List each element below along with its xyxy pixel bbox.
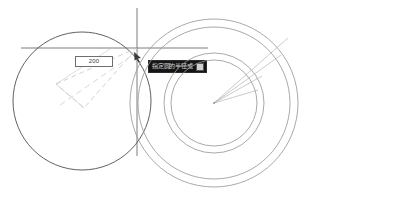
radius-leader-r200 — [214, 90, 258, 103]
radius-leader-lines — [214, 38, 288, 103]
right-drawing-panel: R450 R400 R250 R200 — [208, 0, 416, 200]
radius-center-point — [213, 102, 215, 104]
right-drawing-svg — [0, 0, 416, 200]
radius-leader-r400 — [214, 55, 281, 103]
radius-leader-r450 — [214, 38, 288, 103]
cad-screenshot-canvas: 200 指定圆的半径或 R450 R400 R250 R200 — [0, 0, 416, 200]
